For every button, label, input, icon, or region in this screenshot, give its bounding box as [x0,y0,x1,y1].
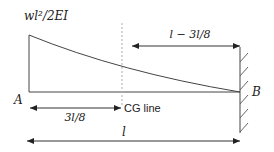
moment-area-diagram: wl²/2EI l − 3l/8 A B 3l/8 CG line l [0,0,274,152]
point-b-label: B [251,85,261,99]
cg-line-label: CG line [124,102,161,114]
top-value-label: wl²/2EI [24,9,68,23]
right-span-label: l − 3l/8 [170,28,211,41]
wall-hatching-icon [240,53,248,132]
total-length-label: l [122,125,126,139]
left-span-label: 3l/8 [64,111,85,124]
point-a-label: A [13,93,23,107]
moment-curve [29,35,240,92]
